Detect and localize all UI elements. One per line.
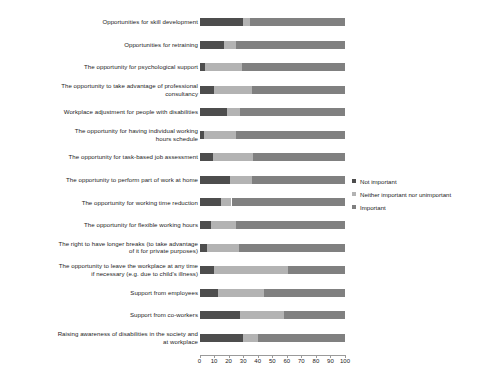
bar-segment bbox=[200, 334, 244, 342]
bar-segment bbox=[200, 108, 228, 116]
bar-segment bbox=[204, 131, 236, 139]
bar-segment bbox=[236, 131, 345, 139]
category-label: Opportunities for retraining bbox=[2, 41, 198, 49]
bar-segment bbox=[243, 334, 258, 342]
bar-segment bbox=[252, 176, 345, 184]
x-axis-tick-label: 80 bbox=[313, 358, 320, 364]
bar-track bbox=[200, 18, 346, 26]
legend-item-not-important: Not important bbox=[352, 175, 451, 187]
x-axis-tick-label: 70 bbox=[298, 358, 305, 364]
bar-track bbox=[200, 176, 346, 184]
category-label: Opportunities for skill development bbox=[2, 18, 198, 26]
chart-row: The opportunity to take advantage of pro… bbox=[0, 82, 484, 105]
bar-segment bbox=[205, 63, 241, 71]
bar-segment bbox=[253, 153, 345, 161]
legend-swatch-icon-neither bbox=[352, 192, 356, 196]
chart-row: The opportunity for psychological suppor… bbox=[0, 59, 484, 82]
category-label: The opportunity to leave the workplace a… bbox=[2, 262, 198, 277]
chart-row: Raising awareness of disabilities in the… bbox=[0, 330, 484, 353]
chart-row: The opportunity for having individual wo… bbox=[0, 127, 484, 150]
bar-segment bbox=[232, 198, 345, 206]
bar-segment bbox=[264, 289, 345, 297]
bar-segment bbox=[213, 153, 254, 161]
category-label: Workplace adjustment for people with dis… bbox=[2, 108, 198, 116]
bar-track bbox=[200, 334, 346, 342]
bar-segment bbox=[227, 108, 240, 116]
x-axis-tick-label: 60 bbox=[283, 358, 290, 364]
bar-segment bbox=[214, 86, 252, 94]
bar-segment bbox=[200, 18, 244, 26]
legend-swatch-icon-important bbox=[352, 205, 356, 209]
bar-track bbox=[200, 63, 346, 71]
bar-segment bbox=[200, 266, 215, 274]
bar-segment bbox=[207, 244, 239, 252]
bar-segment bbox=[252, 86, 345, 94]
bar-segment bbox=[258, 334, 345, 342]
category-label: The opportunity for psychological suppor… bbox=[2, 63, 198, 71]
bar-segment bbox=[200, 221, 212, 229]
x-axis-tick-label: 40 bbox=[254, 358, 261, 364]
category-label: The right to have longer breaks (to take… bbox=[2, 240, 198, 255]
category-label: The opportunity to take advantage of pro… bbox=[2, 82, 198, 97]
bar-segment bbox=[200, 198, 222, 206]
bar-segment bbox=[230, 176, 252, 184]
chart-row: The opportunity to leave the workplace a… bbox=[0, 262, 484, 285]
bar-segment bbox=[200, 176, 231, 184]
bar-segment bbox=[200, 289, 219, 297]
x-axis-tick-label: 30 bbox=[240, 358, 247, 364]
chart-row: The right to have longer breaks (to take… bbox=[0, 240, 484, 263]
category-label: The opportunity for flexible working hou… bbox=[2, 221, 198, 229]
legend-label: Important bbox=[360, 204, 386, 211]
bar-segment bbox=[288, 266, 345, 274]
x-axis-tick-label: 90 bbox=[327, 358, 334, 364]
bar-segment bbox=[200, 311, 241, 319]
bar-segment bbox=[242, 63, 345, 71]
bar-track bbox=[200, 41, 346, 49]
bar-segment bbox=[236, 41, 345, 49]
bar-segment bbox=[200, 244, 207, 252]
bar-track bbox=[200, 131, 346, 139]
category-label: The opportunity to perform part of work … bbox=[2, 176, 198, 184]
legend-label: Not important bbox=[360, 178, 397, 185]
legend-item-important: Important bbox=[352, 201, 451, 213]
bar-segment bbox=[200, 86, 215, 94]
bar-track bbox=[200, 311, 346, 319]
bar-track bbox=[200, 198, 346, 206]
bar-track bbox=[200, 108, 346, 116]
legend-item-neither: Neither important nor unimportant bbox=[352, 188, 451, 200]
bar-segment bbox=[221, 198, 231, 206]
chart-row: The opportunity for flexible working hou… bbox=[0, 217, 484, 240]
bar-track bbox=[200, 221, 346, 229]
bar-segment bbox=[240, 311, 284, 319]
chart-row: Opportunities for skill development bbox=[0, 14, 484, 37]
bar-segment bbox=[214, 266, 288, 274]
bar-segment bbox=[218, 289, 263, 297]
bar-segment bbox=[243, 18, 250, 26]
bar-segment bbox=[250, 18, 345, 26]
bar-track bbox=[200, 153, 346, 161]
bar-track bbox=[200, 289, 346, 297]
stacked-bar-chart: Opportunities for skill developmentOppor… bbox=[0, 0, 484, 386]
bar-track bbox=[200, 244, 346, 252]
category-label: The opportunity for working time reducti… bbox=[2, 199, 198, 207]
chart-row: Workplace adjustment for people with dis… bbox=[0, 104, 484, 127]
category-label: The opportunity for task-based job asses… bbox=[2, 153, 198, 161]
legend-label: Neither important nor unimportant bbox=[360, 191, 451, 198]
chart-row: Opportunities for retraining bbox=[0, 37, 484, 60]
bar-segment bbox=[236, 221, 345, 229]
bar-segment bbox=[284, 311, 345, 319]
x-axis-tick-label: 50 bbox=[269, 358, 276, 364]
x-axis-tick-label: 20 bbox=[225, 358, 232, 364]
legend-swatch-icon-not-important bbox=[352, 179, 356, 183]
x-axis-tick-label: 100 bbox=[340, 358, 350, 364]
bar-track bbox=[200, 86, 346, 94]
bar-segment bbox=[211, 221, 236, 229]
bar-segment bbox=[240, 108, 345, 116]
chart-row: The opportunity for task-based job asses… bbox=[0, 149, 484, 172]
category-label: The opportunity for having individual wo… bbox=[2, 127, 198, 142]
category-label: Raising awareness of disabilities in the… bbox=[2, 330, 198, 345]
chart-row: Support from employees bbox=[0, 285, 484, 308]
bar-segment bbox=[224, 41, 236, 49]
bar-segment bbox=[200, 153, 213, 161]
chart-legend: Not important Neither important nor unim… bbox=[352, 175, 451, 214]
